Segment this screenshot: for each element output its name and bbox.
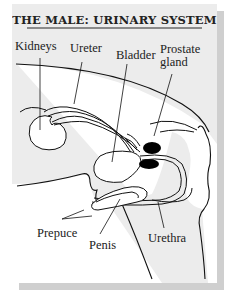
penis-sheath	[92, 187, 147, 210]
label-urethra: Urethra	[148, 232, 186, 245]
prostate-gland-top	[143, 142, 161, 154]
label-penis: Penis	[89, 239, 116, 252]
label-kidneys: Kidneys	[15, 40, 57, 53]
diagram-card: THE MALE: URINARY SYSTEM	[12, 4, 217, 283]
urethra-leader	[158, 202, 164, 228]
label-prepuce: Prepuce	[37, 227, 77, 240]
prostate-gland-bottom	[139, 159, 159, 169]
label-bladder: Bladder	[116, 49, 156, 62]
kidney-top	[20, 107, 46, 112]
kidney	[29, 116, 66, 150]
label-ureter: Ureter	[70, 42, 102, 55]
label-prostate-gland: Prostate gland	[160, 43, 200, 69]
